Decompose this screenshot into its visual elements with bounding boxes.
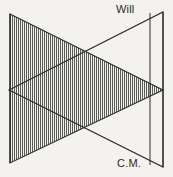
label-will: Will: [116, 4, 135, 15]
label-cm: C.M.: [117, 158, 141, 169]
diagram-figure: Will C.M.: [0, 0, 173, 177]
diagram-canvas: [0, 0, 173, 177]
